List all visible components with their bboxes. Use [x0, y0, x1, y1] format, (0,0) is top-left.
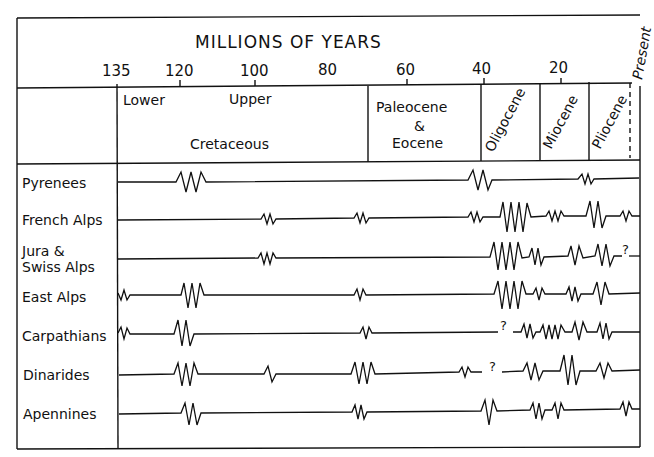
- tick-label-60: 60: [396, 61, 415, 79]
- period-labels: Lower Upper Cretaceous Paleocene & Eocen…: [123, 85, 630, 154]
- row-label-carpathians: Carpathians: [22, 328, 107, 344]
- event-lines: [118, 170, 640, 425]
- uncertain-marker-carpathians: ?: [500, 318, 507, 333]
- period-label-ampersand: &: [414, 118, 425, 134]
- series-line-jura-swiss-alps: [118, 242, 622, 270]
- series-line-carpathians-late: [513, 322, 640, 340]
- tick-label-100: 100: [240, 62, 269, 80]
- period-label-upper: Upper: [229, 91, 272, 107]
- tick-label-135: 135: [102, 62, 131, 80]
- tick-label-20: 20: [549, 59, 568, 77]
- series-line-carpathians: [118, 320, 498, 346]
- tick-label-present: Present: [629, 25, 654, 81]
- row-label-pyrenees: Pyrenees: [22, 175, 86, 191]
- row-label-jura: Jura &: [21, 243, 65, 259]
- series-line-pyrenees: [118, 170, 639, 192]
- row-label-east-alps: East Alps: [22, 289, 86, 305]
- period-label-pliocene: Pliocene: [589, 92, 631, 151]
- series-line-dinarides-late: [502, 355, 640, 385]
- uncertain-marker-jura: ?: [622, 242, 629, 257]
- row-label-apennines: Apennines: [23, 406, 97, 422]
- period-label-eocene: Eocene: [392, 135, 443, 151]
- period-label-paleocene: Paleocene: [376, 99, 447, 115]
- uncertain-marker-dinarides: ?: [489, 359, 496, 374]
- period-label-cretaceous: Cretaceous: [190, 136, 269, 152]
- tick-label-80: 80: [318, 61, 337, 79]
- orogeny-timeline-diagram: MILLIONS OF YEARS 135 120 100 80 60 40 2…: [0, 0, 654, 457]
- row-label-dinarides: Dinarides: [23, 367, 90, 383]
- row-label-french-alps: French Alps: [22, 212, 103, 228]
- tick-label-120: 120: [165, 62, 194, 80]
- period-label-oligocene: Oligocene: [482, 85, 529, 154]
- row-label-swiss-alps: Swiss Alps: [22, 259, 95, 275]
- row-labels: Pyrenees French Alps Jura & Swiss Alps E…: [21, 175, 107, 422]
- series-line-dinarides: [119, 362, 482, 386]
- tick-label-40: 40: [472, 60, 491, 78]
- series-line-east-alps: [118, 281, 640, 309]
- series-line-french-alps: [118, 201, 640, 232]
- period-label-miocene: Miocene: [540, 92, 582, 151]
- period-label-lower: Lower: [123, 92, 165, 108]
- chart-frame: [17, 15, 640, 449]
- series-line-apennines: [119, 400, 640, 425]
- axis-title: MILLIONS OF YEARS: [195, 32, 382, 52]
